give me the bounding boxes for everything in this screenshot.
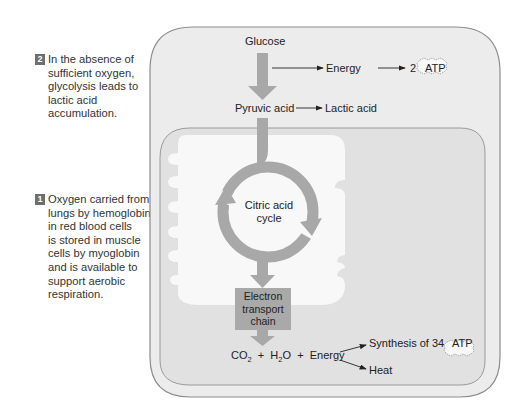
- atp-label-top: ATP: [425, 62, 446, 74]
- synthesis-label: Synthesis of 34: [369, 337, 444, 349]
- etc-line3: chain: [235, 315, 291, 328]
- products-equation: CO2 + H2O + Energy: [231, 349, 345, 364]
- electron-transport-chain-box: Electron transport chain: [235, 288, 291, 330]
- heat-label: Heat: [369, 364, 392, 376]
- atp-count-top: 2: [410, 62, 416, 74]
- plus-sign: +: [258, 349, 264, 361]
- cycle-line1: Citric acid: [241, 199, 297, 212]
- glucose-label: Glucose: [245, 35, 285, 47]
- citric-acid-cycle-label: Citric acid cycle: [241, 199, 297, 225]
- energy-label-top: Energy: [326, 62, 361, 74]
- etc-line1: Electron: [235, 290, 291, 303]
- plus-sign: +: [297, 349, 303, 361]
- cycle-line2: cycle: [241, 212, 297, 225]
- atp-label-bottom: ATP: [452, 337, 473, 349]
- co2: CO: [231, 349, 248, 361]
- pyruvic-acid-label: Pyruvic acid: [235, 102, 294, 114]
- h2o-o: O: [282, 349, 291, 361]
- etc-line2: transport: [235, 303, 291, 316]
- energy-label-bottom: Energy: [310, 349, 345, 361]
- co2-subscript: 2: [248, 355, 252, 364]
- lactic-acid-label: Lactic acid: [325, 102, 377, 114]
